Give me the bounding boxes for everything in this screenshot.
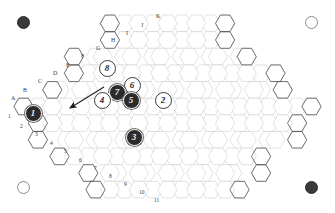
hex-cell[interactable] <box>129 32 148 49</box>
game-piece-label: 7 <box>115 88 120 97</box>
hex-cell[interactable] <box>180 65 199 82</box>
hex-cell[interactable] <box>187 15 206 32</box>
hex-cell[interactable] <box>187 115 206 132</box>
hex-cell[interactable] <box>252 165 271 182</box>
hex-cell[interactable] <box>43 115 62 132</box>
game-piece-label: 1 <box>31 109 36 118</box>
hex-board-canvas: 18674523 ABCDEFGHIJK1234567891011 <box>0 0 335 213</box>
hex-cell[interactable] <box>180 148 199 165</box>
edge-label-letter-K: K <box>156 13 160 19</box>
hex-cell[interactable] <box>43 98 62 115</box>
hex-cell[interactable] <box>100 115 119 132</box>
edge-label-letter-F: F <box>81 53 84 59</box>
hex-cell[interactable] <box>273 98 292 115</box>
hex-cell[interactable] <box>187 32 206 49</box>
edge-label-number-1: 1 <box>8 114 11 120</box>
game-piece-3[interactable]: 3 <box>126 129 143 146</box>
game-piece-label: 3 <box>132 133 137 142</box>
hex-cell[interactable] <box>216 98 235 115</box>
game-piece-6[interactable]: 6 <box>124 77 141 94</box>
hex-cell[interactable] <box>266 65 285 82</box>
hex-cell[interactable] <box>100 15 119 32</box>
hex-cell[interactable] <box>187 181 206 198</box>
edge-label-number-5: 5 <box>64 149 67 155</box>
hex-cell[interactable] <box>100 181 119 198</box>
hex-cell[interactable] <box>302 98 321 115</box>
edge-label-letter-I: I <box>126 30 128 36</box>
edge-label-number-3: 3 <box>35 132 38 138</box>
hex-cell[interactable] <box>237 65 256 82</box>
game-piece-8[interactable]: 8 <box>99 60 116 77</box>
corner-marker-top-left[interactable] <box>17 16 30 29</box>
edge-label-letter-B: B <box>23 87 27 93</box>
edge-label-letter-G: G <box>96 45 100 51</box>
hex-cell[interactable] <box>216 115 235 132</box>
edge-label-number-4: 4 <box>50 141 53 147</box>
edge-label-letter-A: A <box>11 95 15 101</box>
hex-cell[interactable] <box>158 115 177 132</box>
edge-label-number-2: 2 <box>20 124 23 130</box>
game-piece-1[interactable]: 1 <box>25 105 42 122</box>
hex-cell[interactable] <box>187 98 206 115</box>
edge-label-letter-D: D <box>53 70 57 76</box>
hex-cell[interactable] <box>216 181 235 198</box>
game-piece-label: 8 <box>105 64 110 73</box>
hex-cell[interactable] <box>158 181 177 198</box>
hex-cell[interactable] <box>158 15 177 32</box>
hex-cell[interactable] <box>288 131 307 148</box>
hex-cell[interactable] <box>122 148 141 165</box>
corner-marker-top-right[interactable] <box>305 16 318 29</box>
edge-label-letter-E: E <box>66 62 70 68</box>
game-piece-label: 4 <box>100 96 105 105</box>
game-piece-label: 5 <box>129 96 134 105</box>
hex-cell[interactable] <box>244 115 263 132</box>
hex-cell[interactable] <box>100 32 119 49</box>
hex-cell[interactable] <box>273 82 292 99</box>
hex-cell[interactable] <box>158 32 177 49</box>
edge-label-number-7: 7 <box>94 166 97 172</box>
hex-cell[interactable] <box>273 115 292 132</box>
hex-cell[interactable] <box>93 148 112 165</box>
edge-label-number-11: 11 <box>154 198 159 204</box>
corner-marker-bottom-right[interactable] <box>305 181 318 194</box>
hex-cell[interactable] <box>244 98 263 115</box>
game-piece-5[interactable]: 5 <box>123 92 140 109</box>
edge-label-number-8: 8 <box>109 174 112 180</box>
hex-cell[interactable] <box>151 148 170 165</box>
hex-cell[interactable] <box>216 15 235 32</box>
game-piece-label: 6 <box>130 81 135 90</box>
edge-label-letter-J: J <box>141 22 143 28</box>
hex-cell[interactable] <box>151 65 170 82</box>
hex-cell[interactable] <box>208 65 227 82</box>
edge-label-number-9: 9 <box>124 182 127 188</box>
game-piece-2[interactable]: 2 <box>155 92 172 109</box>
edge-label-letter-C: C <box>38 78 42 84</box>
edge-label-number-6: 6 <box>79 158 82 164</box>
edge-label-letter-H: H <box>111 37 115 43</box>
game-piece-label: 2 <box>161 96 166 105</box>
game-piece-4[interactable]: 4 <box>94 92 111 109</box>
hex-cell[interactable] <box>237 148 256 165</box>
edge-label-number-10: 10 <box>139 190 145 196</box>
hex-cell[interactable] <box>216 32 235 49</box>
corner-marker-bottom-left[interactable] <box>17 181 30 194</box>
hex-cell[interactable] <box>72 115 91 132</box>
hex-cell[interactable] <box>208 148 227 165</box>
hex-cell[interactable] <box>129 15 148 32</box>
